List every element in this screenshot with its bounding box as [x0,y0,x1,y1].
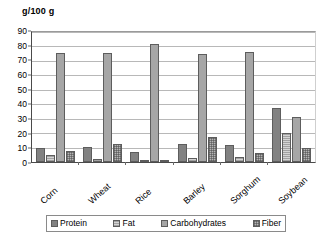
legend-label: Carbohydrates [170,219,226,228]
bar-protein-wheat[interactable] [83,147,92,162]
bar-protein-barley[interactable] [178,144,187,162]
bar-groups [32,32,315,162]
bar-carbohydrates-soybean[interactable] [292,117,301,162]
bar-fat-corn[interactable] [46,155,55,162]
bar-protein-corn[interactable] [36,148,45,162]
bar-fiber-corn[interactable] [66,151,75,162]
bar-fiber-rice[interactable] [160,160,169,162]
y-axis-tick-mark [28,60,31,61]
legend-swatch-fat-icon [113,220,120,227]
y-axis-tick-mark [28,133,31,134]
legend-swatch-carbohydrates-icon [161,220,168,227]
legend-item-carbohydrates[interactable]: Carbohydrates [161,219,226,228]
x-axis-category-labels: CornWheatRiceBarleySorghumSoybean [31,166,316,206]
y-axis-tick-label: 30 [18,115,27,124]
bar-group [268,32,315,162]
y-axis-tick-label: 60 [18,71,27,80]
bar-group [79,32,126,162]
y-axis-tick-mark [28,45,31,46]
y-axis-tick-label: 10 [18,144,27,153]
bar-carbohydrates-wheat[interactable] [103,53,112,162]
bar-fat-soybean[interactable] [282,133,291,162]
bar-fiber-soybean[interactable] [302,148,311,162]
bar-group [126,32,173,162]
chart-legend: ProteinFatCarbohydratesFiber [46,215,286,232]
bar-carbohydrates-rice[interactable] [150,44,159,162]
y-axis-tick-label: 90 [18,27,27,36]
y-axis-tick-mark [28,89,31,90]
plot-area [31,31,316,163]
y-axis-tick-label: 20 [18,129,27,138]
bar-protein-sorghum[interactable] [225,145,234,162]
legend-item-fiber[interactable]: Fiber [253,219,281,228]
x-axis-label-sorghum: Sorghum [229,175,262,206]
bar-group [32,32,79,162]
legend-label: Fiber [262,219,281,228]
bar-fat-barley[interactable] [188,158,197,162]
legend-item-protein[interactable]: Protein [51,219,87,228]
y-axis-tick-mark [28,75,31,76]
bar-group [174,32,221,162]
x-axis-label-barley: Barley [182,182,207,206]
bar-group [221,32,268,162]
y-axis-tick-mark [28,119,31,120]
legend-item-fat[interactable]: Fat [113,219,134,228]
bar-protein-soybean[interactable] [272,108,281,162]
bar-fiber-barley[interactable] [208,137,217,162]
bar-carbohydrates-corn[interactable] [56,53,65,162]
x-axis-label-wheat: Wheat [87,182,112,206]
bar-chart: g/100 g 9080706050403020100 CornWheatRic… [0,0,329,245]
bar-fiber-sorghum[interactable] [255,153,264,162]
bar-protein-rice[interactable] [130,152,139,162]
y-axis-tick-mark [28,148,31,149]
y-axis-tick-label: 80 [18,41,27,50]
x-axis-label-rice: Rice [134,187,153,206]
y-axis-tick-label: 0 [22,159,27,168]
y-axis-tick-mark [28,104,31,105]
x-axis-label-corn: Corn [39,186,60,206]
y-axis-tick-label: 70 [18,56,27,65]
bar-fat-wheat[interactable] [93,159,102,162]
bar-fat-rice[interactable] [140,160,149,162]
y-axis-tick-label: 40 [18,100,27,109]
legend-label: Protein [60,219,87,228]
plot-wrapper: 9080706050403020100 [31,31,316,163]
bar-fat-sorghum[interactable] [235,157,244,162]
y-axis-title: g/100 g [22,6,54,16]
legend-swatch-protein-icon [51,220,58,227]
x-axis-label-soybean: Soybean [277,176,309,206]
bar-fiber-wheat[interactable] [113,144,122,162]
bar-carbohydrates-barley[interactable] [198,54,207,162]
y-axis-tick-mark [28,31,31,32]
y-axis-tick-label: 50 [18,85,27,94]
y-axis-tick-mark [28,163,31,164]
legend-label: Fat [122,219,134,228]
bar-carbohydrates-sorghum[interactable] [245,52,254,162]
legend-swatch-fiber-icon [253,220,260,227]
